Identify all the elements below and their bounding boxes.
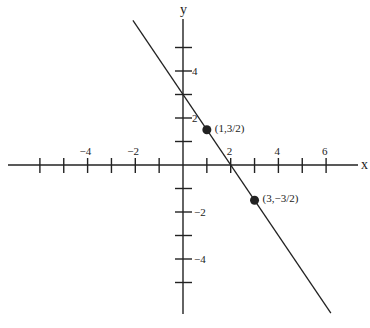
y-tick-label: 4 [192,65,198,77]
x-tick-label: 6 [322,145,328,157]
x-tick-label: −4 [80,145,92,157]
plotted-points: (1,3/2)(3,−3/2) [202,122,298,206]
x-tick-label: 4 [274,145,280,157]
coordinate-plane: −4−224642−2−4 (1,3/2)(3,−3/2) x y [0,0,370,328]
point-label: (1,3/2) [215,122,245,135]
axes [8,19,358,314]
y-tick-label: −4 [194,253,206,265]
x-axis-label: x [361,157,368,172]
point-label: (3,−3/2) [263,192,299,205]
y-tick-label: −2 [194,206,206,218]
x-tick-label: −2 [127,145,139,157]
point-marker [250,196,259,205]
y-axis-label: y [180,2,187,17]
plotted-line [133,20,331,313]
point-marker [202,125,211,134]
line-y-equals-neg-three-halves-x-plus-3 [133,20,331,313]
x-tick-label: 2 [227,145,233,157]
